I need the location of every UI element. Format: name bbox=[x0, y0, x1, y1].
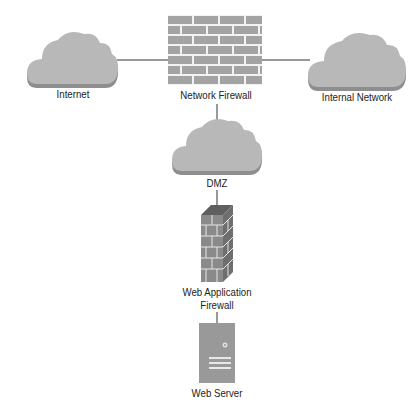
network-diagram: Internet Network Firewall Internal Netwo… bbox=[0, 0, 410, 408]
diagram-graphics bbox=[0, 0, 410, 408]
internet-label: Internet bbox=[57, 88, 90, 101]
web-server-icon bbox=[199, 323, 235, 383]
dmz-label: DMZ bbox=[207, 177, 228, 190]
internet-cloud-icon bbox=[27, 32, 118, 88]
network-firewall-icon bbox=[168, 15, 262, 85]
dmz-cloud-icon bbox=[172, 119, 262, 175]
waf-label-line2: Firewall bbox=[200, 299, 233, 312]
internal-network-cloud-icon bbox=[308, 33, 406, 91]
web-application-firewall-icon bbox=[201, 205, 233, 282]
internal-network-label: Internal Network bbox=[322, 91, 392, 104]
network-firewall-label: Network Firewall bbox=[180, 89, 251, 102]
web-server-label: Web Server bbox=[192, 387, 243, 400]
waf-label-line1: Web Application bbox=[182, 286, 251, 299]
